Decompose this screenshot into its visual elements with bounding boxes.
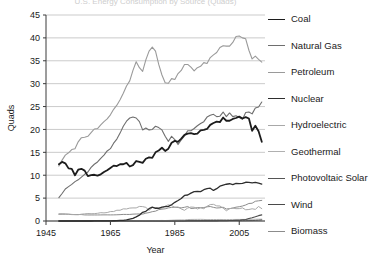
chart-title: U.S. Energy Consumption by Source (Quads…	[75, 0, 237, 6]
x-axis-tick-label: 2005	[229, 228, 249, 238]
legend-line-swatch	[268, 125, 285, 126]
legend-line-swatch	[268, 45, 285, 46]
y-axis-tick-label: 20	[30, 125, 40, 135]
series-line-coal	[59, 117, 262, 177]
series-line-petroleum	[59, 36, 262, 166]
legend-line-swatch	[268, 231, 285, 232]
y-axis-tick-label: 35	[30, 56, 40, 66]
y-axis-tick-label: 0	[35, 216, 40, 226]
legend-item-petroleum[interactable]: Petroleum	[268, 66, 334, 78]
legend-line-swatch	[268, 98, 285, 99]
y-axis-tick-label: 10	[30, 171, 40, 181]
x-axis-tick-label: 1945	[36, 228, 56, 238]
legend-item-natural-gas[interactable]: Natural Gas	[268, 40, 342, 52]
legend-item-geothermal[interactable]: Geothermal	[268, 146, 341, 158]
legend-item-coal[interactable]: Coal	[268, 13, 311, 25]
legend-label: Wind	[291, 199, 313, 211]
x-axis-tick-label: 1985	[165, 228, 185, 238]
y-axis-tick-label: 5	[35, 193, 40, 203]
x-axis-tick-label: 1965	[100, 228, 120, 238]
y-axis-title: Quads	[6, 104, 16, 131]
chart-legend: CoalNatural GasPetroleumNuclearHydroelec…	[268, 0, 391, 267]
legend-label: Hydroelectric	[291, 119, 346, 131]
legend-label: Petroleum	[291, 66, 334, 78]
chart-figure: U.S. Energy Consumption by Source (Quads…	[0, 0, 391, 267]
legend-line-swatch	[268, 72, 285, 73]
legend-label: Nuclear	[291, 93, 324, 105]
y-axis-tick-label: 15	[30, 148, 40, 158]
legend-item-nuclear[interactable]: Nuclear	[268, 93, 324, 105]
legend-item-wind[interactable]: Wind	[268, 199, 313, 211]
legend-item-hydroelectric[interactable]: Hydroelectric	[268, 119, 346, 131]
y-axis-tick-label: 30	[30, 79, 40, 89]
legend-item-biomass[interactable]: Biomass	[268, 225, 327, 237]
legend-line-swatch	[268, 19, 285, 20]
y-axis-tick-label: 25	[30, 102, 40, 112]
y-axis-tick-label: 45	[30, 10, 40, 20]
legend-line-swatch	[268, 204, 285, 205]
legend-label: Geothermal	[291, 146, 341, 158]
legend-line-swatch	[268, 151, 285, 152]
legend-label: Natural Gas	[291, 40, 342, 52]
legend-line-swatch	[268, 178, 285, 179]
legend-label: Photovoltaic Solar	[291, 172, 368, 184]
x-axis-title: Year	[146, 245, 164, 255]
y-axis-tick-label: 40	[30, 33, 40, 43]
legend-label: Coal	[291, 13, 311, 25]
legend-item-photovoltaic-solar[interactable]: Photovoltaic Solar	[268, 172, 368, 184]
legend-label: Biomass	[291, 225, 327, 237]
